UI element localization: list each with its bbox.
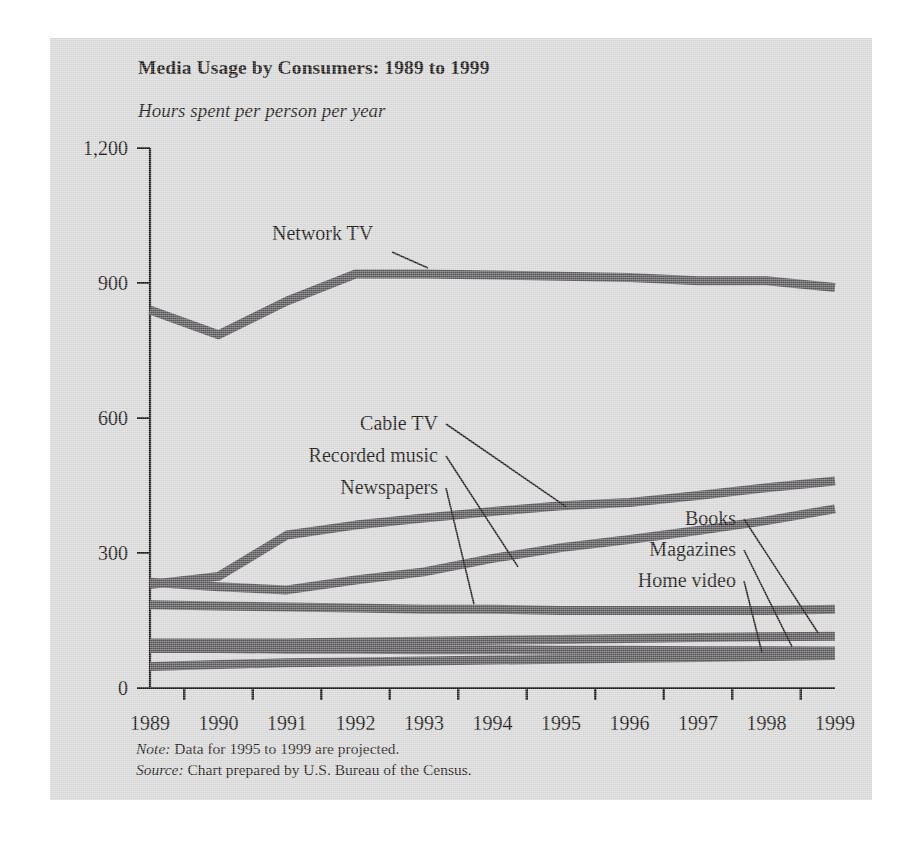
data-series-lines: [150, 274, 835, 666]
leader-line-cable-tv: [446, 424, 566, 507]
y-tick-label-900: 900: [98, 272, 128, 294]
y-tick-label-300: 300: [98, 542, 128, 564]
series-line-network-tv: [150, 274, 835, 335]
leader-line-newspapers: [446, 488, 474, 604]
x-tick-label-1994: 1994: [473, 712, 513, 734]
x-tick-label-1990: 1990: [199, 712, 239, 734]
x-tick-label-1995: 1995: [541, 712, 581, 734]
chart-figure: Media Usage by Consumers: 1989 to 1999 H…: [50, 38, 872, 800]
chart-note: Note: Data for 1995 to 1999 are projecte…: [136, 738, 472, 759]
series-label-magazines: Magazines: [649, 538, 736, 561]
y-tick-label-0: 0: [118, 677, 128, 699]
x-tick-label-1993: 1993: [404, 712, 444, 734]
y-tick-label-600: 600: [98, 407, 128, 429]
series-label-cable-tv: Cable TV: [360, 412, 439, 434]
source-text: Chart prepared by U.S. Bureau of the Cen…: [184, 761, 472, 778]
note-text: Data for 1995 to 1999 are projected.: [170, 740, 399, 757]
series-label-recorded-music: Recorded music: [309, 444, 439, 466]
x-tick-label-1996: 1996: [610, 712, 650, 734]
x-tick-label-1999: 1999: [815, 712, 855, 734]
x-tick-label-1989: 1989: [130, 712, 170, 734]
y-axis-ticks: 03006009001,200: [83, 137, 150, 699]
series-label-home-video: Home video: [638, 569, 736, 591]
note-keyword: Note:: [136, 740, 170, 757]
x-axis-ticks: 1989199019911992199319941995199619971998…: [130, 688, 855, 734]
series-label-network-tv: Network TV: [272, 222, 374, 244]
series-line-newspapers: [150, 605, 835, 611]
chart-source: Source: Chart prepared by U.S. Bureau of…: [136, 759, 472, 780]
line-chart-plot: 03006009001,200 198919901991199219931994…: [50, 38, 872, 800]
x-tick-label-1997: 1997: [678, 712, 718, 734]
series-label-newspapers: Newspapers: [340, 476, 438, 499]
leader-line-network-tv: [392, 252, 428, 268]
series-line-magazines: [150, 648, 835, 651]
x-tick-label-1992: 1992: [336, 712, 376, 734]
x-tick-label-1998: 1998: [747, 712, 787, 734]
annotation-leader-lines: [392, 252, 818, 653]
series-label-books: Books: [685, 507, 736, 529]
leader-line-magazines: [744, 550, 792, 647]
chart-footnotes: Note: Data for 1995 to 1999 are projecte…: [136, 738, 472, 780]
series-line-home-video: [150, 656, 835, 667]
x-tick-label-1991: 1991: [267, 712, 307, 734]
leader-line-books: [744, 519, 818, 633]
series-line-books: [150, 636, 835, 643]
source-keyword: Source:: [136, 761, 184, 778]
leader-line-home-video: [744, 581, 762, 653]
y-tick-label-1200: 1,200: [83, 137, 128, 159]
